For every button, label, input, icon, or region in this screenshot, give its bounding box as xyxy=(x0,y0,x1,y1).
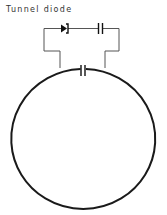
tunnel-diode-icon xyxy=(61,24,68,33)
circuit-diagram xyxy=(0,0,167,215)
series-capacitor-icon xyxy=(99,23,103,34)
loop-resonator xyxy=(11,69,155,209)
coupling-capacitor-icon xyxy=(81,65,85,76)
wire-network xyxy=(44,29,119,69)
